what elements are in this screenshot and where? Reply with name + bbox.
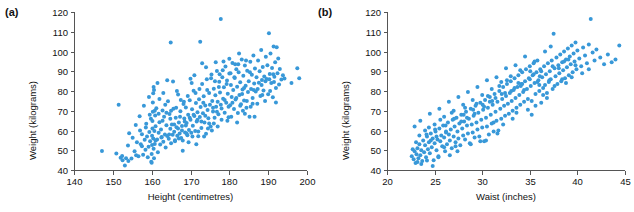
x-axis-title-a: Height (centimetres) [74, 191, 307, 202]
x-tick-label: 170 [184, 176, 200, 187]
y-tick-label: 120 [365, 7, 381, 18]
x-tick-label: 30 [477, 176, 488, 187]
y-tick-label: 60 [57, 126, 68, 137]
scatter-panel-b: (b) 405060708090100110120202530354045 Wa… [317, 0, 634, 212]
y-tick-label: 110 [53, 27, 68, 38]
y-axis-title-a: Weight (kilograms) [27, 81, 38, 160]
y-tick-label: 70 [370, 106, 381, 117]
y-axis-title-b: Weight (kilograms) [340, 81, 351, 160]
x-tick-label: 20 [382, 176, 393, 187]
x-tick-label: 45 [620, 176, 631, 187]
data-points [100, 17, 301, 168]
y-tick-label: 40 [370, 165, 381, 176]
y-tick-label: 90 [57, 66, 68, 77]
y-tick-label: 50 [370, 145, 381, 156]
x-axis-title-b: Waist (inches) [387, 191, 625, 202]
x-tick-label: 150 [106, 176, 122, 187]
scatter-plot-b: 405060708090100110120202530354045 [317, 0, 634, 212]
y-tick-label: 100 [52, 47, 68, 58]
y-tick-label: 60 [370, 126, 381, 137]
y-tick-label: 90 [370, 66, 381, 77]
y-tick-label: 80 [57, 86, 68, 97]
scatter-panel-a: (a) 405060708090100110120140150160170180… [0, 0, 317, 212]
y-tick-label: 80 [370, 86, 381, 97]
x-tick-label: 180 [222, 176, 238, 187]
y-tick-label: 100 [365, 47, 381, 58]
y-tick-label: 70 [57, 106, 68, 117]
data-points [410, 17, 622, 168]
y-tick-label: 40 [57, 165, 68, 176]
scatter-plot-a: 4050607080901001101201401501601701801902… [0, 0, 317, 212]
x-tick-label: 140 [67, 176, 83, 187]
x-tick-label: 40 [572, 176, 583, 187]
x-tick-label: 200 [300, 176, 316, 187]
y-tick-label: 110 [366, 27, 381, 38]
y-tick-label: 50 [57, 145, 68, 156]
x-tick-label: 25 [430, 176, 441, 187]
x-tick-label: 160 [145, 176, 161, 187]
y-tick-label: 120 [52, 7, 68, 18]
x-tick-label: 190 [261, 176, 277, 187]
x-tick-label: 35 [525, 176, 536, 187]
